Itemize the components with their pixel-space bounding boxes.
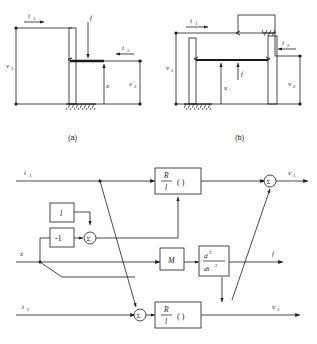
label-i1-sub-b: 1 [195, 21, 198, 26]
label-f-b: f [241, 70, 244, 78]
label-i2-a: i [122, 44, 124, 52]
summer-out-v1-label: Σ [267, 178, 271, 186]
figure-container: i 1 v 1 f x v 2 i 2 (a) [0, 0, 317, 344]
label-input-i2-sub: 2 [27, 307, 30, 312]
label-v2-sub-a: 2 [134, 84, 137, 89]
label-v1-b: v [166, 64, 170, 72]
label-v2-a: v [129, 80, 133, 88]
label-input-i2: i [22, 303, 24, 311]
wire-diagonal-i1-to-bottom-summer [100, 181, 136, 307]
wire-diagonal-to-out-summer [232, 189, 270, 300]
label-output-v1-sub: 1 [293, 173, 296, 178]
block-gain-neg1-label: -1 [55, 234, 62, 243]
figure-svg: i 1 v 1 f x v 2 i 2 (a) [0, 0, 317, 344]
block-rl-top-numerator: R [163, 171, 169, 180]
block-diagram: i 1 R l ( ) Σ v 1 l -1 Σ x [16, 168, 308, 328]
label-input-i1: i [24, 169, 26, 177]
block-rl-top-suffix: ( ) [177, 178, 185, 187]
label-output-v1: v [288, 169, 292, 177]
label-i2-sub-a: 2 [127, 48, 130, 53]
label-x-a: x [105, 82, 110, 90]
block-gain-neg1 [50, 228, 74, 247]
label-v1-sub-a: 1 [11, 66, 14, 71]
label-i1-sub-a: 1 [33, 16, 36, 21]
caption-b: (b) [235, 133, 245, 142]
block-rl-bottom-suffix: ( ) [177, 312, 185, 321]
label-output-v2-sub: 2 [277, 307, 280, 312]
label-v1-a: v [6, 62, 10, 70]
label-x-b: x [223, 84, 228, 92]
label-i1-b: i [190, 17, 192, 25]
label-f-a: f [90, 14, 93, 22]
block-mass-m-label: M [167, 256, 176, 265]
block-deriv-numerator: d [204, 252, 208, 260]
schematic-b: i 1 v 1 f x v 2 [166, 15, 302, 142]
summer-mid-label: Σ [87, 235, 91, 243]
label-i2-b: i [282, 39, 284, 47]
label-v1-sub-b: 1 [171, 68, 174, 73]
label-i2-sub-b: 2 [287, 43, 290, 48]
summer-bottom-label: Σ [137, 312, 141, 320]
label-input-x: x [19, 250, 24, 258]
block-rl-bottom-numerator: R [163, 305, 169, 314]
label-input-i1-sub: 1 [29, 173, 32, 178]
block-rl-top-denominator: l [165, 183, 167, 192]
label-v2-sub-b: 2 [293, 84, 296, 89]
label-output-f: f [272, 250, 275, 258]
caption-a: (a) [68, 133, 78, 142]
label-i1-a: i [28, 12, 30, 20]
block-rl-bottom-denominator: l [165, 317, 167, 326]
label-output-v2: v [272, 303, 276, 311]
label-v2-b: v [288, 80, 292, 88]
schematic-a: i 1 v 1 f x v 2 i 2 (a) [6, 12, 142, 142]
